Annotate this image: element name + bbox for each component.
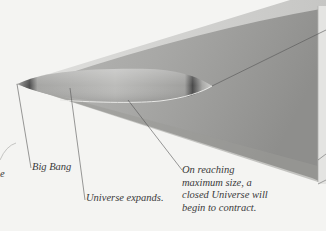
label-closed-universe-contract: On reaching maximum size, a closed Unive…: [182, 164, 302, 214]
label-big-bang: Big Bang: [32, 161, 71, 174]
cropped-label-fragment: e: [0, 168, 5, 181]
label-universe-expands: Universe expands.: [86, 192, 164, 205]
partial-leader-curve: [0, 143, 16, 160]
leader-line-big-bang: [17, 84, 31, 168]
